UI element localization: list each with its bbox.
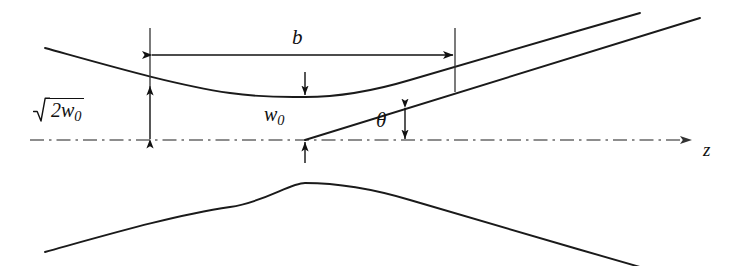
- far-field-asymptote: [305, 18, 700, 140]
- lower-hyperbola-path: [45, 183, 640, 266]
- radical-group: 2w0: [33, 98, 84, 123]
- sqrt-variable: w: [61, 99, 74, 121]
- axis-label: z: [703, 140, 710, 159]
- confocal-parameter-symbol: b: [292, 25, 303, 49]
- divergence-angle-label: θ: [376, 110, 386, 131]
- divergence-angle-symbol: θ: [376, 108, 386, 132]
- beam-geometry-svg: [0, 0, 737, 266]
- confocal-parameter-label: b: [292, 27, 303, 48]
- waist-radius-symbol: w: [264, 103, 277, 125]
- radical-sign-icon: [33, 97, 50, 122]
- waist-diameter-label: 2w0: [33, 98, 84, 123]
- sqrt-coefficient: 2: [51, 99, 61, 121]
- lower-beam-envelope: [45, 183, 640, 266]
- sqrt-subscript: 0: [74, 108, 81, 124]
- confocal-parameter-ticks: [150, 28, 455, 92]
- gaussian-beam-diagram: b w0 θ z 2w0: [0, 0, 737, 266]
- waist-radius-subscript: 0: [277, 112, 284, 128]
- asymptote-line: [305, 18, 700, 140]
- waist-radius-label: w0: [264, 104, 285, 127]
- radicand: 2w0: [50, 98, 84, 123]
- axis-symbol: z: [703, 139, 710, 160]
